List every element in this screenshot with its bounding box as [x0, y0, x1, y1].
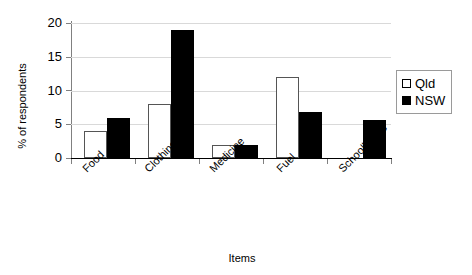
- bar-qld-fuel: [276, 77, 299, 158]
- x-tick-mark: [391, 159, 392, 164]
- gridline: [71, 91, 391, 92]
- y-tick-label: 5: [36, 117, 62, 130]
- bar-chart: % of respondents 0 5 10 15 20: [0, 0, 472, 275]
- x-axis-title: Items: [0, 252, 472, 264]
- y-tick-label: 0: [36, 151, 62, 164]
- x-tick-mark: [71, 159, 72, 164]
- legend-item-qld: Qld: [402, 75, 445, 92]
- plot-area: [71, 23, 391, 158]
- bar-nsw-food: [107, 118, 130, 159]
- x-tick-mark: [199, 159, 200, 164]
- y-tick-label: 20: [36, 16, 62, 29]
- legend-label-nsw: NSW: [415, 94, 445, 107]
- legend: Qld NSW: [396, 70, 452, 114]
- y-axis-tick-labels: 0 5 10 15 20: [34, 0, 62, 275]
- bar-nsw-clothing: [171, 30, 194, 158]
- x-tick-mark: [327, 159, 328, 164]
- y-tick-label: 10: [36, 84, 62, 97]
- gridline: [71, 23, 391, 24]
- bar-nsw-fuel: [299, 112, 322, 158]
- x-axis-title-text: Items: [217, 252, 256, 264]
- legend-item-nsw: NSW: [402, 92, 445, 109]
- y-axis-title: % of respondents: [16, 46, 28, 166]
- legend-label-qld: Qld: [415, 77, 435, 90]
- x-tick-mark: [263, 159, 264, 164]
- y-tick-label: 15: [36, 50, 62, 63]
- open-square-icon: [402, 79, 411, 88]
- filled-square-icon: [402, 96, 411, 105]
- x-tick-mark: [135, 159, 136, 164]
- gridline: [71, 57, 391, 58]
